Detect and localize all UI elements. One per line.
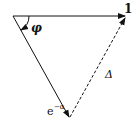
label-one: 1	[124, 2, 132, 16]
phasor-diagram: 1 φ Δ e −α	[0, 0, 136, 129]
label-delta: Δ	[104, 68, 113, 81]
label-phi: φ	[31, 21, 42, 35]
angle-arc	[21, 16, 29, 30]
label-e: e	[47, 105, 54, 118]
label-exponent: −α	[54, 103, 65, 111]
difference-vector-arrow	[70, 18, 125, 117]
